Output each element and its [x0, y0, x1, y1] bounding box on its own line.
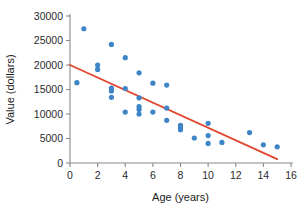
- data-point: [192, 135, 197, 140]
- data-point: [123, 86, 128, 91]
- data-point: [164, 118, 169, 123]
- y-tick-label: 5000: [40, 132, 64, 144]
- data-point: [164, 82, 169, 87]
- x-tick-label: 4: [122, 169, 128, 181]
- data-point: [219, 140, 224, 145]
- x-tick-label: 14: [258, 169, 270, 181]
- x-tick-label: 8: [178, 169, 184, 181]
- x-tick-label: 2: [95, 169, 101, 181]
- x-tick-label: 16: [285, 169, 297, 181]
- x-axis-tick-marks: [70, 163, 291, 167]
- x-tick-label: 10: [202, 169, 214, 181]
- data-point: [109, 42, 114, 47]
- data-point: [206, 121, 211, 126]
- scatter-chart: 050001000015000200002500030000 024681012…: [0, 0, 307, 213]
- data-point: [74, 80, 79, 85]
- data-point-group: [74, 26, 279, 149]
- data-point: [178, 127, 183, 132]
- x-tick-label: 12: [230, 169, 242, 181]
- data-point: [81, 26, 86, 31]
- data-point: [206, 133, 211, 138]
- data-point: [164, 106, 169, 111]
- x-axis-title: Age (years): [152, 191, 209, 203]
- x-tick-label: 0: [67, 169, 73, 181]
- data-point: [136, 70, 141, 75]
- y-tick-label: 20000: [34, 59, 63, 71]
- y-tick-label: 30000: [34, 10, 63, 22]
- data-point: [123, 109, 128, 114]
- regression-line: [70, 65, 277, 159]
- y-axis-tick-labels: 050001000015000200002500030000: [34, 10, 63, 169]
- y-tick-label: 0: [57, 157, 63, 169]
- plot-area: 050001000015000200002500030000 024681012…: [0, 0, 307, 213]
- data-point: [150, 81, 155, 86]
- data-point: [109, 88, 114, 93]
- data-point: [109, 95, 114, 100]
- data-point: [275, 144, 280, 149]
- y-axis-tick-marks: [66, 16, 70, 163]
- data-point: [123, 55, 128, 60]
- data-point: [261, 142, 266, 147]
- data-point: [247, 130, 252, 135]
- data-point: [136, 95, 141, 100]
- data-point: [150, 109, 155, 114]
- data-point: [206, 141, 211, 146]
- data-point: [136, 111, 141, 116]
- x-axis-tick-labels: 0246810121416: [67, 169, 297, 181]
- y-tick-label: 15000: [34, 83, 63, 95]
- y-tick-label: 25000: [34, 34, 63, 46]
- x-tick-label: 6: [150, 169, 156, 181]
- y-tick-label: 10000: [34, 108, 63, 120]
- y-axis-title: Value (dollars): [4, 54, 16, 124]
- data-point: [95, 67, 100, 72]
